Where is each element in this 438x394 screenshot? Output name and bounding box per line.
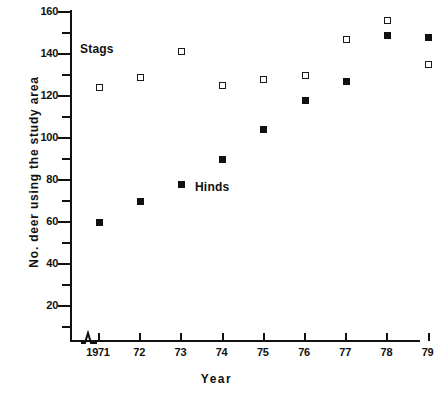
y-tick-minor (62, 200, 70, 202)
y-axis-title: No. deer using the study area (27, 42, 41, 302)
y-tick-minor (62, 116, 70, 118)
data-point-hinds (178, 181, 185, 188)
y-tick-major (58, 263, 70, 265)
y-tick-minor (62, 284, 70, 286)
y-tick-minor (62, 74, 70, 76)
y-tick-major (58, 137, 70, 139)
data-point-hinds (137, 198, 144, 205)
x-tick-label: 77 (325, 346, 365, 358)
data-point-stags (178, 48, 185, 55)
data-point-hinds (302, 97, 309, 104)
x-tick-label: 75 (243, 346, 283, 358)
x-tick (304, 333, 306, 341)
data-point-stags (96, 84, 103, 91)
data-point-stags (219, 82, 226, 89)
x-tick (98, 333, 100, 341)
x-tick-label: 73 (160, 346, 200, 358)
y-tick-major (58, 95, 70, 97)
data-point-hinds (260, 126, 267, 133)
y-tick-minor (62, 242, 70, 244)
data-point-hinds (219, 156, 226, 163)
data-point-stags (260, 76, 267, 83)
x-tick (263, 333, 265, 341)
x-tick (180, 333, 182, 341)
x-tick-label: 74 (202, 346, 242, 358)
x-tick-label: 1971 (78, 346, 118, 358)
y-tick-label: 160 (18, 5, 58, 17)
data-point-hinds (343, 78, 350, 85)
data-point-hinds (96, 219, 103, 226)
x-tick (428, 333, 430, 341)
y-tick-major (58, 179, 70, 181)
x-tick (222, 333, 224, 341)
y-tick-minor (62, 326, 70, 328)
y-tick-major (58, 305, 70, 307)
x-tick-label: 78 (366, 346, 406, 358)
data-point-hinds (425, 34, 432, 41)
data-point-stags (425, 61, 432, 68)
y-tick-minor (62, 158, 70, 160)
data-point-stags (137, 74, 144, 81)
data-point-stags (302, 72, 309, 79)
data-point-stags (343, 36, 350, 43)
y-tick-major (58, 11, 70, 13)
x-tick (386, 333, 388, 341)
x-tick-label: 79 (408, 346, 438, 358)
y-tick-major (58, 53, 70, 55)
y-tick-major (58, 221, 70, 223)
data-point-hinds (384, 32, 391, 39)
x-axis-title: Year (0, 372, 433, 386)
data-point-stags (384, 17, 391, 24)
x-tick-label: 72 (119, 346, 159, 358)
axis-break-icon (80, 330, 98, 346)
x-tick (139, 333, 141, 341)
series-label-stags: Stags (80, 42, 114, 56)
y-tick-minor (62, 32, 70, 34)
x-axis-line (70, 340, 420, 342)
x-tick (345, 333, 347, 341)
series-label-hinds: Hinds (195, 180, 229, 194)
x-tick-label: 76 (284, 346, 324, 358)
y-axis-line (70, 10, 72, 342)
